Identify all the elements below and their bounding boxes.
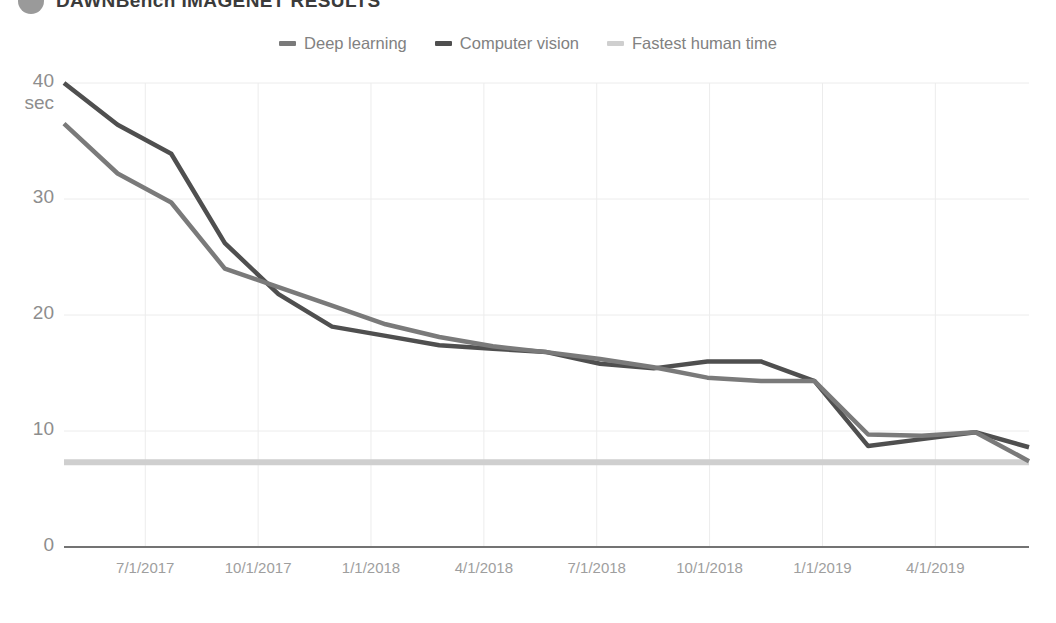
x-tick-label: 7/1/2018 xyxy=(568,559,626,576)
x-tick-label: 1/1/2019 xyxy=(793,559,851,576)
x-tick-label: 7/1/2017 xyxy=(116,559,174,576)
line-chart: 010203040sec 7/1/201710/1/20171/1/20184/… xyxy=(0,0,1056,623)
series-line xyxy=(64,124,1029,462)
x-tick-label: 4/1/2018 xyxy=(455,559,513,576)
y-tick-label: 20 xyxy=(10,302,54,324)
series-lines xyxy=(64,83,1029,462)
y-axis-unit-label: sec xyxy=(10,92,54,114)
x-tick-label: 10/1/2017 xyxy=(225,559,292,576)
chart-canvas xyxy=(0,0,1056,623)
y-tick-label: 10 xyxy=(10,418,54,440)
series-line xyxy=(64,83,1029,447)
y-tick-label: 40 xyxy=(10,70,54,92)
y-tick-label: 0 xyxy=(10,534,54,556)
x-tick-label: 4/1/2019 xyxy=(906,559,964,576)
x-tick-label: 10/1/2018 xyxy=(676,559,743,576)
y-tick-label: 30 xyxy=(10,186,54,208)
x-tick-label: 1/1/2018 xyxy=(342,559,400,576)
y-gridlines xyxy=(64,83,1029,431)
